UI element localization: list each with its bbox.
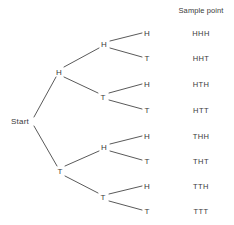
tree-root-label: Start [11,117,29,126]
tree-branch-t-to-th [65,151,99,166]
tree-branch-t-to-tt [65,176,98,193]
sample-point-tht: THT [193,157,209,166]
tree-diagram-canvas: StartHTHTHTHTHTHTHTSample pointHHHHHTHTH… [0,0,234,225]
tree-branch-hh-to-hht [110,48,142,57]
tree-branch-th-to-tht [110,151,142,160]
tree-branch-tt-to-tth [109,186,142,194]
tree-branch-ht-to-htt [109,100,142,109]
tree-branch-th-to-thh [110,136,142,144]
sample-point-tth: TTH [193,182,209,191]
edge-group [34,33,142,210]
tree-branch-start-to-t [34,126,57,166]
tree-node-tht: T [144,157,149,166]
tree-node-hht: T [144,54,149,63]
tree-branch-start-to-h [34,77,56,117]
sample-point-hth: HTH [193,80,210,89]
tree-branch-hh-to-hhh [110,33,142,41]
tree-node-h: H [56,68,62,77]
sample-point-thh: THH [193,132,210,141]
tree-node-htt: T [144,106,149,115]
tree-node-hh: H [101,40,107,49]
tree-node-hhh: H [144,29,150,38]
tree-node-ttt: T [144,207,149,216]
tree-branch-h-to-hh [64,48,99,67]
tree-node-hth: H [144,80,150,89]
tree-node-thh: H [144,132,150,141]
sample-point-column-header: Sample point [179,6,224,15]
sample-point-hhh: HHH [192,29,209,38]
tree-node-t: T [57,167,62,176]
sample-point-htt: HTT [193,106,209,115]
tree-node-ht: T [100,93,105,102]
tree-branch-ht-to-hth [109,84,142,93]
sample-point-ttt: TTT [194,207,209,216]
tree-node-th: H [101,143,107,152]
tree-branch-tt-to-ttt [109,201,142,210]
tree-node-tth: H [144,182,150,191]
tree-node-tt: T [100,193,105,202]
tree-branch-h-to-ht [64,77,98,93]
sample-point-hht: HHT [193,54,210,63]
